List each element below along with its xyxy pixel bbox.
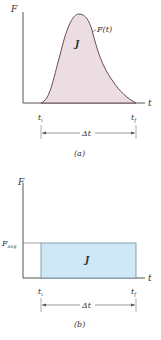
y-axis-label: F: [17, 177, 25, 187]
t-start-label: ti: [38, 113, 43, 123]
force-curve-area: [41, 14, 136, 103]
interval-label: Δt: [81, 129, 92, 138]
y-axis-label: F: [10, 4, 18, 14]
x-axis-label: t: [148, 273, 152, 283]
interval-label: Δt: [81, 301, 92, 310]
impulse-label: J: [83, 255, 90, 265]
arrowhead-left: [42, 304, 46, 307]
panel-b: F t Favg J ti tf Δt (b): [1, 177, 152, 329]
t-start-label: ti: [38, 287, 43, 297]
arrowhead-right: [131, 132, 135, 135]
curve-label: F(t): [96, 25, 112, 34]
panel-a: F t J F(t) ti tf Δt (a): [10, 4, 152, 158]
caption-b: (b): [74, 320, 85, 329]
arrowhead-left: [42, 132, 46, 135]
impulse-label: J: [73, 39, 80, 49]
t-end-label: tf: [131, 113, 137, 124]
x-axis-label: t: [148, 98, 152, 108]
caption-a: (a): [74, 149, 85, 158]
impulse-diagram: F t J F(t) ti tf Δt (a) F t Favg J ti tf…: [0, 0, 161, 340]
arrowhead-right: [131, 304, 135, 307]
f-avg-label: Favg: [1, 239, 17, 250]
t-end-label: tf: [131, 287, 137, 298]
